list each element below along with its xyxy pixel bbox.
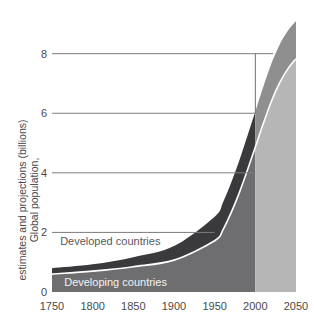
x-tick-1800: 1800 [80,300,104,312]
y-axis-tick-labels: 02468 [41,48,47,298]
annotation-developed-countries: Developed countries [60,235,161,247]
x-tick-2000: 2000 [243,300,267,312]
chart-page: 02468 1750180018501900195020002050 estim… [0,0,314,330]
x-tick-2050: 2050 [284,300,308,312]
population-area-chart: 02468 1750180018501900195020002050 estim… [0,0,314,330]
x-tick-1750: 1750 [40,300,64,312]
y-tick-8: 8 [41,48,47,60]
y-axis-title-line2: Global population, [28,158,40,243]
annotation-developing-countries: Developing countries [64,276,167,288]
chart-areas [52,21,296,292]
y-tick-4: 4 [41,167,47,179]
x-tick-1900: 1900 [162,300,186,312]
y-tick-2: 2 [41,226,47,238]
x-tick-1950: 1950 [202,300,226,312]
y-tick-6: 6 [41,107,47,119]
y-tick-0: 0 [41,286,47,298]
x-tick-1850: 1850 [121,300,145,312]
x-axis-tick-labels: 1750180018501900195020002050 [40,300,308,312]
y-axis-title-line1: estimates and projections (billions) [16,119,28,280]
